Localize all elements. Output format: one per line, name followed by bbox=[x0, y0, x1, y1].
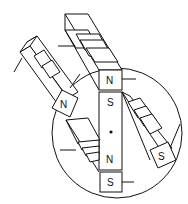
right-magnet-label: S bbox=[158, 151, 165, 162]
center-bar-top-label: S bbox=[107, 97, 114, 108]
top-magnet-stack: N bbox=[58, 14, 136, 90]
left-magnet-stack: N bbox=[14, 36, 80, 117]
top-magnet-label: N bbox=[106, 75, 113, 86]
center-bar-bottom-label: N bbox=[106, 154, 113, 165]
pivot-dot bbox=[109, 130, 112, 133]
center-bar-magnet: S N bbox=[99, 92, 122, 170]
right-magnet-stack: S bbox=[122, 92, 180, 168]
magnet-rotor-diagram: N N S N S bbox=[0, 0, 188, 204]
left-magnet-label: N bbox=[60, 99, 67, 110]
bottom-magnet-stack: S bbox=[60, 118, 134, 192]
bottom-magnet-label: S bbox=[107, 177, 114, 188]
